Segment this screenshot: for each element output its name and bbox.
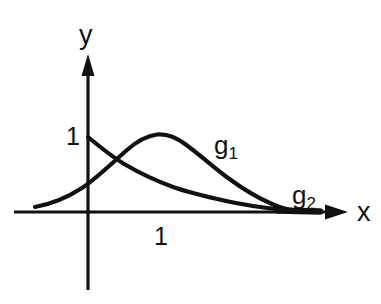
x-axis-label: x bbox=[357, 199, 371, 226]
x-axis-tick-label-1: 1 bbox=[154, 224, 168, 249]
y-axis-label: y bbox=[79, 22, 93, 49]
curve-label-g2: g2 bbox=[292, 182, 316, 208]
curve-label-g2-base: g bbox=[292, 180, 306, 210]
curve-label-g2-subscript: 2 bbox=[306, 194, 315, 213]
curve-g2 bbox=[88, 137, 280, 210]
arrow-right-icon bbox=[325, 205, 348, 220]
plot-canvas bbox=[0, 0, 381, 304]
curve-label-g1: g1 bbox=[214, 132, 238, 158]
math-diagram-figure: y x 1 1 g1 g2 bbox=[0, 0, 381, 304]
arrow-up-icon bbox=[82, 54, 95, 76]
curve-label-g1-base: g bbox=[214, 130, 228, 160]
curve-label-g1-subscript: 1 bbox=[228, 144, 237, 163]
y-axis-tick-label-1: 1 bbox=[66, 124, 80, 149]
